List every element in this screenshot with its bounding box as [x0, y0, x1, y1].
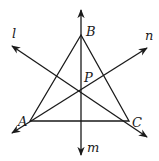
line-l: [12, 46, 147, 137]
point-label-p: P: [83, 70, 93, 85]
point-label-b: B: [85, 24, 96, 39]
line-label-l: l: [12, 26, 16, 41]
line-label-n: n: [145, 28, 153, 43]
line-n: [12, 48, 147, 133]
point-label-c: C: [132, 115, 142, 130]
geometry-diagram: A B C P l m n: [0, 0, 159, 161]
point-label-a: A: [17, 114, 27, 129]
triangle-abc: [30, 35, 129, 121]
line-label-m: m: [87, 140, 99, 155]
